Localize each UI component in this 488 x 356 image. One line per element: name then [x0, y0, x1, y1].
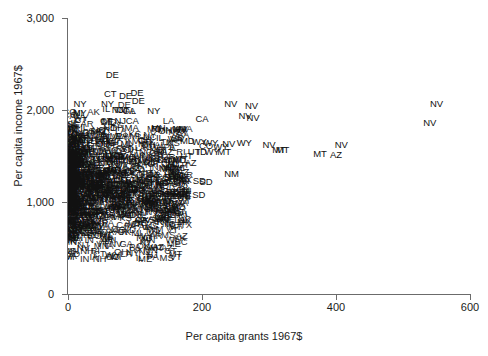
data-point-label: ND	[141, 198, 155, 208]
data-point-label: CA	[119, 197, 132, 207]
data-point-label: KY	[111, 146, 123, 156]
x-axis-tick-600	[470, 294, 471, 300]
data-point-label: SD	[192, 190, 205, 200]
data-point-label: KS	[110, 120, 122, 130]
data-point-label: OK	[169, 171, 183, 181]
data-point-label: NM	[224, 170, 239, 180]
scatter-plot-figure: 3,000 2,000 1,000 0 0 200 400 600 Per ca…	[0, 0, 488, 356]
data-point-label: NJ	[68, 124, 75, 134]
data-point-label: CO	[106, 252, 120, 262]
data-point-label: NY	[82, 194, 95, 204]
data-point-label: AZ	[161, 244, 173, 254]
y-axis-tick-label-3000: 3,000	[14, 13, 54, 24]
data-point-label: NV	[335, 140, 348, 150]
x-axis-tick-label-0: 0	[45, 302, 91, 313]
data-point-label: LA	[134, 163, 145, 173]
data-point-label: NV	[224, 99, 237, 109]
data-point-label: NY	[147, 107, 160, 117]
x-axis-tick-200	[202, 294, 203, 300]
data-point-label: CO	[106, 179, 120, 189]
plot-area: DECTDEDEDENYNYNVNVNVNYNJCTCANYCTCTNJCACA…	[68, 18, 470, 294]
data-point-label: CA	[196, 114, 209, 124]
data-point-label: SD	[200, 177, 213, 187]
data-point-label: NV	[423, 118, 436, 128]
x-axis-tick-label-400: 400	[313, 302, 359, 313]
data-point-label: MT	[217, 147, 231, 157]
data-point-label: MS	[103, 165, 117, 175]
data-point-label: MS	[161, 230, 175, 240]
data-point-label: AK	[87, 107, 99, 117]
data-point-label: NV	[246, 113, 259, 123]
x-axis-tick-label-600: 600	[447, 302, 488, 313]
x-axis-title: Per capita grants 1967$	[0, 330, 488, 342]
data-point-label: AZ	[330, 150, 342, 160]
data-point-label: WV	[163, 199, 178, 209]
data-point-label: MN	[151, 124, 166, 134]
x-axis-tick-400	[336, 294, 337, 300]
data-point-label: CO	[68, 107, 77, 117]
data-point-label: VA	[68, 137, 75, 147]
data-point-label: WI	[99, 229, 110, 239]
data-point-label: FL	[68, 150, 75, 160]
y-axis-title: Per capita income 1967$	[12, 26, 24, 226]
x-axis-line	[68, 294, 471, 295]
y-axis-tick-label-0: 0	[14, 289, 54, 300]
data-point-label: NV	[430, 100, 443, 110]
data-point-label: AR	[125, 208, 138, 218]
data-point-label: VT	[80, 213, 92, 223]
data-point-label: MT	[276, 146, 290, 156]
data-point-label: TN	[113, 105, 125, 115]
x-axis-tick-0	[68, 294, 69, 300]
data-point-label: SD	[68, 221, 76, 231]
data-point-label: NY	[142, 153, 155, 163]
data-point-label: GA	[119, 239, 133, 249]
data-point-label: CT	[104, 89, 116, 99]
data-point-label: RI	[106, 212, 115, 222]
data-point-label: MD	[90, 127, 105, 137]
data-point-label: CA	[161, 160, 174, 170]
data-point-label: WY	[237, 138, 252, 148]
data-point-label: WY	[137, 232, 152, 242]
data-point-label: MN	[143, 245, 158, 255]
data-point-label: DE	[106, 70, 119, 80]
data-point-label: VT	[96, 240, 108, 250]
data-point-label: NE	[162, 215, 175, 225]
data-point-label: MA	[120, 185, 134, 195]
data-point-label: NC	[168, 128, 182, 138]
data-point-label: MI	[90, 151, 100, 161]
data-point-label: WI	[178, 196, 189, 206]
data-point-label: PA	[99, 145, 111, 155]
data-point-label: IL	[102, 104, 110, 114]
x-axis-tick-label-200: 200	[179, 302, 225, 313]
data-point-label: VT	[170, 252, 182, 262]
data-point-label: AR	[115, 227, 128, 237]
data-point-label: RI	[176, 148, 185, 158]
data-point-label: ME	[139, 178, 153, 188]
data-point-label: AK	[68, 169, 76, 179]
data-point-label: IN	[99, 195, 108, 205]
data-point-label: IN	[80, 254, 89, 264]
data-point-label: MN	[68, 238, 77, 248]
data-point-label: IN	[125, 137, 134, 147]
data-point-label: ID	[68, 193, 76, 203]
data-point-label: AL	[89, 175, 100, 185]
data-point-label: MT	[313, 149, 327, 159]
